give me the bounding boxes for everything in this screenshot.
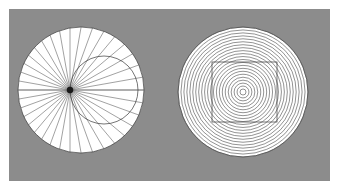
figure-canvas [0, 0, 339, 190]
concentric-rings-figure [178, 27, 308, 157]
focus-dot [67, 87, 73, 93]
geometry-illustration [0, 0, 339, 190]
right-disc [178, 27, 308, 157]
